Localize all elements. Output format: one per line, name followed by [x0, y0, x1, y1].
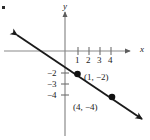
- figure-canvas: y x 1 2 3 4 −2 −3 −4 (1, −2) (4, −4): [0, 0, 150, 140]
- coordinate-plane-graph: [0, 0, 150, 140]
- point-label-2: (4, −4): [73, 103, 98, 112]
- y-tick-label-minus2: −2: [47, 69, 57, 78]
- y-tick-label-minus4: −4: [47, 91, 57, 100]
- point-label-1: (1, −2): [84, 73, 109, 82]
- data-point-1: [74, 71, 81, 78]
- x-axis: [4, 47, 130, 55]
- x-axis-label: x: [140, 45, 144, 54]
- x-tick-label-4: 4: [108, 56, 113, 65]
- x-tick-label-2: 2: [86, 56, 91, 65]
- x-tick-label-1: 1: [75, 56, 80, 65]
- data-point-2: [109, 94, 116, 101]
- y-axis-label: y: [63, 2, 67, 11]
- y-tick-label-minus3: −3: [47, 80, 57, 89]
- x-tick-label-3: 3: [97, 56, 102, 65]
- y-axis: [61, 12, 69, 136]
